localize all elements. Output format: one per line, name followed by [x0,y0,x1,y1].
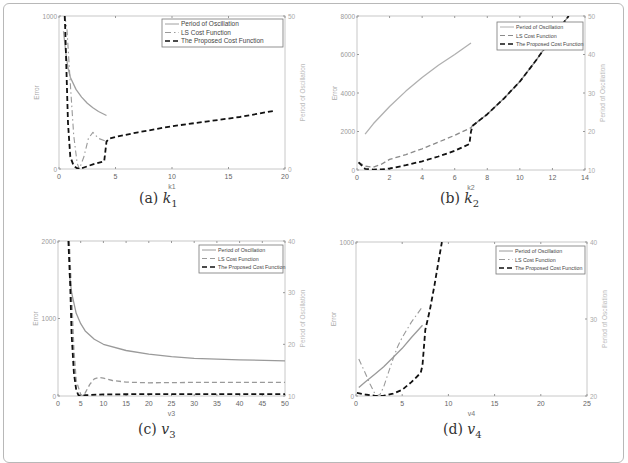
x-tick-label: 6 [453,174,457,181]
x-tick-label: 2 [388,174,392,181]
y-right-tick-label: 30 [590,316,598,323]
y-right-axis-label: Period of Oscillation [299,63,306,121]
y-right-tick-label: 40 [588,51,596,58]
subplot-c: 0510152025303540455001000200010203040v3E… [32,238,306,418]
legend-entry: LS Cost Function [515,257,556,263]
y-tick-label: 1000 [42,315,57,322]
legend-entry: The Proposed Cost Function [218,264,285,270]
x-tick-label: 25 [583,400,591,407]
y-right-tick-label: 20 [588,128,596,135]
caption-b: (b) k2 [440,190,479,209]
y-axis-label: Error [330,311,337,326]
legend: Period of OscillationLS Cost FunctionThe… [162,19,283,47]
caption-variable: k [464,190,472,206]
y-tick-label: 0 [53,166,57,173]
x-tick-label: 10 [445,400,453,407]
x-axis-label: v3 [168,410,176,417]
x-tick-label: 35 [213,400,221,407]
legend-entry: The Proposed Cost Function [515,265,582,271]
x-tick-label: 5 [400,400,404,407]
x-tick-label: 14 [581,174,589,181]
x-tick-label: 12 [549,174,557,181]
x-tick-label: 10 [168,173,176,180]
caption-label: (a) [139,190,158,206]
y-tick-label: 0 [52,393,56,400]
caption-label: (d) [443,421,463,437]
y-right-tick-label: 20 [288,341,296,348]
x-tick-label: 20 [537,400,545,407]
y-right-tick-label: 40 [288,238,296,245]
x-tick-label: 20 [145,400,153,407]
subplot-a: 0510152001000050k1ErrorPeriod of Oscilla… [33,13,306,191]
y-right-tick-label: 0 [288,166,292,173]
x-tick-label: 25 [168,400,176,407]
x-tick-label: 15 [122,400,130,407]
y-right-axis-label: Period of Oscillation [599,64,606,122]
x-axis-label: k1 [168,183,176,190]
caption-label: (b) [440,190,460,206]
y-right-axis-label: Period of Oscillation [601,290,608,348]
series-line [65,16,107,169]
x-tick-label: 0 [354,400,358,407]
x-tick-label: 10 [100,400,108,407]
x-axis-label: v4 [468,410,476,417]
series-line [69,273,285,361]
y-right-tick-label: 50 [288,13,296,20]
y-tick-label: 1000 [340,239,355,246]
x-tick-label: 20 [281,173,289,180]
series-line [357,242,442,396]
caption-c: (c) v3 [138,421,176,440]
x-tick-label: 10 [516,174,524,181]
y-right-tick-label: 10 [588,167,596,174]
subplot-b: 02468101214020004000600080001020304050k2… [331,13,606,192]
x-tick-label: 5 [114,173,118,180]
x-tick-label: 5 [79,400,83,407]
y-tick-label: 0 [350,393,354,400]
caption-d: (d) v4 [443,421,482,440]
y-tick-label: 2000 [42,238,57,245]
y-right-tick-label: 10 [288,393,296,400]
legend-entry: The Proposed Cost Function [181,37,264,45]
y-axis-label: Error [331,85,338,100]
y-right-axis-label: Period of Oscillation [299,289,306,347]
series-line [359,325,423,387]
caption-label: (c) [138,421,157,437]
legend-entry: Period of Oscillation [218,247,265,253]
caption-variable: k [163,190,171,206]
legend-entry: LS Cost Function [516,33,557,39]
legend-entry: Period of Oscillation [181,20,239,27]
y-tick-label: 6000 [341,51,356,58]
legend-entry: The Proposed Cost Function [516,41,583,47]
y-tick-label: 1000 [43,13,58,20]
legend: Period of OscillationLS Cost FunctionThe… [497,22,583,50]
y-right-tick-label: 40 [590,239,598,246]
x-tick-label: 45 [258,400,266,407]
caption-subscript: 3 [169,429,175,440]
x-tick-label: 0 [56,400,60,407]
x-tick-label: 50 [281,400,289,407]
y-axis-label: Error [32,310,39,325]
y-tick-label: 0 [351,167,355,174]
legend-entry: Period of Oscillation [516,24,563,30]
x-tick-label: 30 [190,400,198,407]
x-tick-label: 15 [225,173,233,180]
x-tick-label: 40 [236,400,244,407]
y-tick-label: 2000 [341,128,356,135]
caption-subscript: 1 [171,198,177,209]
x-tick-label: 4 [420,174,424,181]
caption-a: (a) k1 [139,190,178,209]
caption-subscript: 4 [475,429,481,440]
y-axis-label: Error [33,84,40,99]
x-tick-label: 15 [491,400,499,407]
series-line [365,43,471,134]
caption-variable: v [161,421,169,437]
x-tick-label: 8 [485,174,489,181]
series-line [359,307,423,396]
subplot-d: 051015202501000203040v4ErrorPeriod of Os… [330,239,608,418]
y-right-tick-label: 50 [588,13,596,20]
y-right-tick-label: 20 [590,393,598,400]
legend: Period of OscillationLS Cost FunctionThe… [199,245,285,273]
y-right-tick-label: 30 [288,289,296,296]
legend: Period of OscillationLS Cost FunctionThe… [496,246,585,274]
legend-entry: LS Cost Function [181,29,231,36]
